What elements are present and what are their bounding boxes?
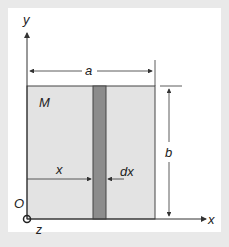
position-label: x — [55, 162, 63, 177]
x-axis-label: x — [207, 212, 215, 227]
y-axis-label: y — [22, 12, 31, 27]
strip-element — [93, 86, 106, 219]
strip-width-label: dx — [120, 164, 134, 179]
z-axis-label: z — [35, 223, 42, 237]
mass-label: M — [39, 95, 50, 110]
plate-diagram: y x z O M a b x dx — [0, 0, 229, 247]
height-label: b — [165, 145, 172, 160]
width-label: a — [85, 63, 92, 78]
origin-label: O — [14, 196, 24, 211]
